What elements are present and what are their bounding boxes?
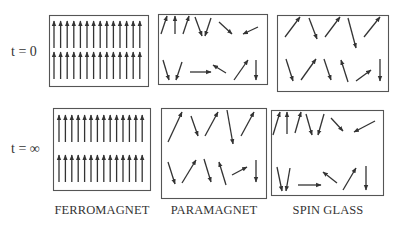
spin-diagram [0,0,396,225]
panel-ferromagnet-t0 [50,16,149,87]
spin-arrow-icon [325,17,340,37]
spin-arrow-icon [204,159,211,182]
spin-arrow-icon [356,70,371,81]
panel-paramagnet-tinf [162,109,267,199]
spin-arrow-icon [227,110,233,144]
spin-arrow-icon [205,112,218,136]
spin-arrow-icon [354,121,375,132]
spin-arrow-icon [195,17,202,36]
spin-arrow-icon [241,112,254,136]
panel-frame [272,111,384,196]
spin-arrow-icon [232,167,247,175]
spin-arrow-icon [205,18,211,36]
spin-arrow-icon [213,65,226,73]
spin-arrow-icon [163,60,169,80]
spin-arrow-icon [331,118,343,131]
spin-arrow-icon [234,60,248,80]
spin-arrow-icon [295,112,301,133]
panel-spin-glass-t0 [278,16,389,92]
spin-arrow-icon [219,22,232,34]
spin-arrow-icon [183,16,189,34]
spin-arrow-icon [161,16,167,34]
panel-spin-glass-tinf [272,111,384,196]
spin-arrow-icon [318,114,324,135]
spin-arrow-icon [324,59,331,80]
spin-arrow-icon [301,59,316,80]
spin-arrow-icon [219,162,226,185]
spin-arrow-icon [285,17,300,37]
spin-arrow-icon [364,17,380,37]
spin-arrow-icon [168,162,175,184]
spin-arrow-icon [243,27,258,34]
panel-paramagnet-t0 [159,15,268,85]
spin-arrow-icon [277,167,282,191]
spin-arrow-icon [176,62,182,80]
panel-ferromagnet-tinf [54,109,151,191]
spin-arrow-icon [323,172,337,183]
spin-arrow-icon [309,18,317,39]
spin-arrow-icon [348,18,356,48]
spin-arrow-icon [182,160,196,183]
spin-arrow-icon [286,168,290,191]
spin-arrow-icon [286,59,293,81]
spin-arrow-icon [341,60,348,82]
spin-arrow-icon [306,114,312,135]
spin-arrow-icon [168,112,182,142]
spin-arrow-icon [343,168,356,190]
spin-arrow-icon [191,116,198,136]
spin-arrow-icon [273,112,280,135]
